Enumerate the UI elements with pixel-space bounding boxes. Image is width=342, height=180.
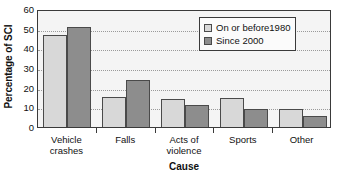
x-tick [96,128,97,133]
bar[interactable] [244,109,268,127]
bar[interactable] [185,105,209,127]
x-tick [155,128,156,133]
bar-group [97,11,156,127]
legend-entry[interactable]: On or before1980 [204,21,290,34]
x-category-label: Acts of violence [167,134,202,156]
bar-group [38,11,97,127]
x-category-label: Other [290,134,314,145]
bar[interactable] [43,35,67,127]
y-axis-tick-labels: 0102030405060 [18,8,36,130]
x-axis-title: Cause [37,161,331,172]
y-tick-label: 30 [23,64,34,74]
y-tick-label: 20 [23,84,34,94]
legend-swatch-icon [204,37,212,45]
y-tick-label: 0 [29,123,34,133]
bar[interactable] [126,80,150,127]
y-tick-label: 40 [23,45,34,55]
chart-legend: On or before1980Since 2000 [199,17,296,51]
y-tick-label: 50 [23,25,34,35]
bar[interactable] [303,116,327,127]
x-category-label: Sports [229,134,256,145]
bar[interactable] [279,109,303,127]
x-axis-category-labels: Vehicle crashesFallsActs of violenceSpor… [37,134,331,162]
legend-swatch-icon [204,24,212,32]
y-axis-title-text: Percentage of SCI [4,24,15,108]
bar[interactable] [67,27,91,127]
x-tick [213,128,214,133]
y-axis-title: Percentage of SCI [0,0,18,132]
legend-entry[interactable]: Since 2000 [204,34,290,47]
bar[interactable] [102,97,126,127]
bar[interactable] [220,98,244,128]
x-tick [272,128,273,133]
x-axis-ticks [37,128,331,133]
x-category-label: Falls [115,134,135,145]
legend-label: On or before1980 [216,22,290,33]
legend-label: Since 2000 [216,35,264,46]
bar[interactable] [161,99,185,127]
y-tick-label: 10 [23,104,34,114]
x-category-label: Vehicle crashes [50,134,83,156]
bar-chart-figure: Percentage of SCI 0102030405060 Vehicle … [0,0,342,180]
y-tick-label: 60 [23,5,34,15]
